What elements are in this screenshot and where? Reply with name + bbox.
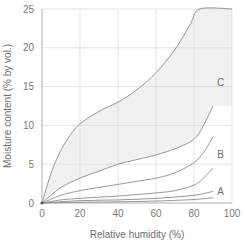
chart: 0510152025 020406080100 CBA Relative hum… [0,0,245,240]
x-tick-label: 0 [39,208,45,219]
y-tick-label: 10 [23,120,35,131]
y-tick-label: 5 [28,159,34,170]
x-tick-label: 80 [188,208,200,219]
region-label-c: C [217,77,224,88]
shaded-region [42,8,232,203]
region-label-a: A [217,186,224,197]
x-tick-labels: 020406080100 [39,208,241,219]
region-label-b: B [217,149,224,160]
origin-marker [40,201,43,204]
series-line-a-lower [42,198,213,203]
x-tick-label: 60 [150,208,162,219]
y-axis-label: Moisture content (% by vol.) [2,44,13,168]
x-tick-label: 100 [224,208,241,219]
y-tick-labels: 0510152025 [23,4,35,209]
shaded-area [42,8,232,203]
x-axis-label: Relative humidity (%) [90,229,184,240]
y-tick-label: 25 [23,4,35,15]
x-tick-label: 20 [74,208,86,219]
y-tick-label: 0 [28,198,34,209]
y-tick-label: 20 [23,42,35,53]
x-tick-label: 40 [112,208,124,219]
y-tick-label: 15 [23,81,35,92]
